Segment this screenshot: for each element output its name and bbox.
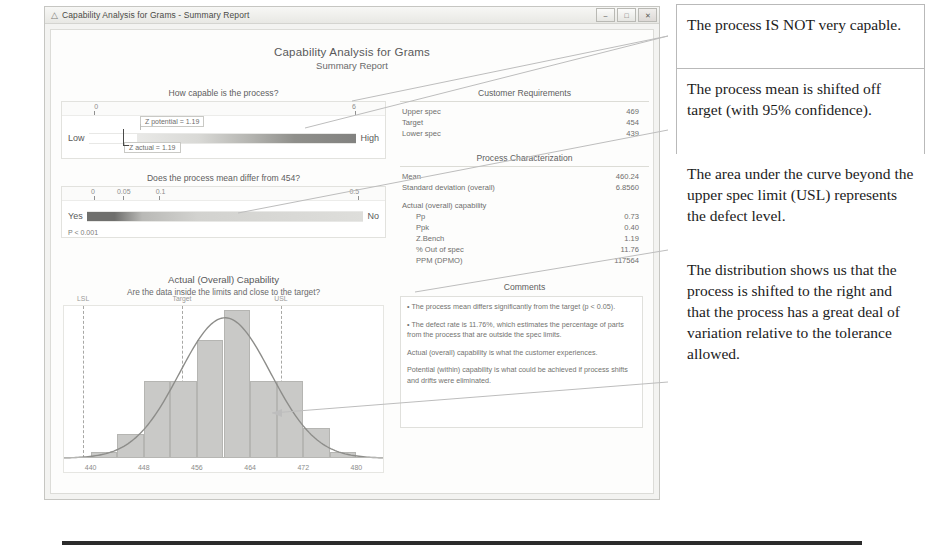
minimize-button[interactable]: – [596, 8, 615, 22]
table-row: % Out of spec11.76 [402, 244, 639, 255]
normal-curve [64, 306, 383, 472]
x-tick-label: 448 [138, 464, 150, 471]
page-subtitle: Summary Report [51, 60, 653, 71]
row-value: 1.19 [624, 233, 639, 244]
histogram-plot-area: LSL Target USL 440448456464472480 [63, 305, 384, 473]
row-value: 0.40 [624, 222, 639, 233]
row-label: Standard deviation (overall) [402, 182, 495, 193]
row-label: Pp [402, 211, 425, 222]
annotation-note-4: The distribution shows us that the proce… [676, 250, 925, 400]
row-value: 0.73 [624, 211, 639, 222]
z-actual-marker: Z actual = 1.19 [124, 142, 181, 153]
divider [400, 101, 649, 102]
customer-requirements-table: Upper spec469Target454Lower spec439 [402, 106, 639, 139]
pvalue-gauge: 0 0.05 0.1 0.5 Yes [61, 186, 386, 238]
x-tick-label: 440 [85, 464, 97, 471]
bottom-rule [62, 541, 862, 545]
report-columns: How capable is the process? 0 6 Low [51, 82, 653, 493]
pvalue-bar [87, 212, 364, 221]
x-tick-label: 464 [244, 464, 256, 471]
row-value: 460.24 [616, 171, 639, 182]
comment-item: • The process mean differs significantly… [407, 302, 636, 313]
row-value: 454 [626, 117, 639, 128]
pvalue-scale: 0 0.05 0.1 0.5 [62, 187, 385, 201]
pvalue-question: Does the process mean differ from 454? [51, 173, 396, 183]
pvalue-tick-05: 0.5 [349, 188, 359, 195]
target-label: Target [173, 295, 192, 302]
minitab-window: △ Capability Analysis for Grams - Summar… [44, 6, 660, 500]
capability-question: How capable is the process? [51, 88, 396, 98]
row-label: PPM (DPMO) [402, 255, 462, 266]
table-row: Lower spec439 [402, 128, 639, 139]
actual-capability-table: Pp0.73Ppk0.40Z.Bench1.19% Out of spec11.… [402, 211, 639, 266]
actual-capability-heading: Actual (overall) capability [402, 200, 639, 211]
row-value: 6.8560 [616, 182, 639, 193]
pvalue-yes-label: Yes [68, 211, 83, 221]
annotation-note-3: The area under the curve beyond the uppe… [676, 154, 925, 250]
comments-heading: Comments [396, 282, 653, 292]
right-column: Customer Requirements Upper spec469Targe… [396, 82, 653, 493]
page-title: Capability Analysis for Grams [51, 46, 653, 58]
capability-high-label: High [360, 133, 379, 143]
table-row: Ppk0.40 [402, 222, 639, 233]
table-row: Z.Bench1.19 [402, 233, 639, 244]
table-row: Upper spec469 [402, 106, 639, 117]
x-tick-label: 472 [297, 464, 309, 471]
customer-requirements-heading: Customer Requirements [396, 88, 653, 98]
window-controls: – □ ✕ [596, 8, 657, 22]
capability-gauge: 0 6 Low High Z potential = 1.1 [61, 101, 386, 159]
pvalue-tick-0: 0 [91, 188, 95, 195]
capability-scale-min: 0 [94, 103, 98, 110]
lsl-label: LSL [77, 295, 89, 302]
row-label: Z.Bench [402, 233, 444, 244]
row-value: 439 [626, 128, 639, 139]
capability-low-label: Low [68, 133, 85, 143]
capability-scale: 0 6 [62, 102, 385, 116]
capability-scale-max: 6 [352, 103, 356, 110]
comment-item: Potential (within) capability is what co… [407, 365, 636, 386]
process-characterization-table: Mean460.24Standard deviation (overall)6.… [402, 171, 639, 193]
report-canvas: Capability Analysis for Grams Summary Re… [50, 29, 654, 494]
comments-box: • The process mean differs significantly… [400, 296, 643, 428]
row-label: Mean [402, 171, 421, 182]
pvalue-track [87, 211, 364, 222]
row-label: Ppk [402, 222, 429, 233]
pvalue-no-label: No [367, 211, 379, 221]
z-actual-foot [123, 145, 129, 146]
row-label: Lower spec [402, 128, 441, 139]
annotation-note-1: The process IS NOT very capable. [676, 4, 925, 68]
annotation-note-2: The process mean is shifted off target (… [676, 68, 925, 154]
histogram-title: Actual (Overall) Capability [51, 274, 396, 285]
histogram-x-axis [64, 457, 383, 458]
row-label: Upper spec [402, 106, 441, 117]
annotation-panel: The process IS NOT very capable. The pro… [676, 4, 925, 400]
usl-label: USL [274, 295, 287, 302]
z-actual-pin [123, 129, 124, 145]
minitab-graph-icon: △ [49, 10, 59, 20]
histogram-subtitle: Are the data inside the limits and close… [51, 287, 396, 297]
table-row: Target454 [402, 117, 639, 128]
close-button[interactable]: ✕ [638, 8, 657, 22]
window-title: Capability Analysis for Grams - Summary … [62, 10, 596, 20]
process-characterization-heading: Process Characterization [396, 153, 653, 163]
x-tick-label: 456 [191, 464, 203, 471]
pvalue-tick-005: 0.05 [117, 188, 131, 195]
row-value: 469 [626, 106, 639, 117]
capability-histogram: Actual (Overall) Capability Are the data… [51, 274, 396, 473]
p-value-text: P < 0.001 [68, 229, 98, 236]
window-title-bar[interactable]: △ Capability Analysis for Grams - Summar… [45, 7, 659, 24]
left-column: How capable is the process? 0 6 Low [51, 82, 396, 493]
z-potential-pin [140, 124, 141, 130]
table-row: Standard deviation (overall)6.8560 [402, 182, 639, 193]
comment-item: Actual (overall) capability is what the … [407, 348, 636, 359]
table-row: Mean460.24 [402, 171, 639, 182]
row-value: 117564 [614, 255, 639, 266]
x-tick-label: 480 [351, 464, 363, 471]
row-label: % Out of spec [402, 244, 464, 255]
row-label: Target [402, 117, 423, 128]
table-row: PPM (DPMO)117564 [402, 255, 639, 266]
z-potential-marker: Z potential = 1.19 [140, 116, 204, 127]
maximize-button[interactable]: □ [617, 8, 636, 22]
comment-item: • The defect rate is 11.76%, which estim… [407, 320, 636, 341]
table-row: Pp0.73 [402, 211, 639, 222]
